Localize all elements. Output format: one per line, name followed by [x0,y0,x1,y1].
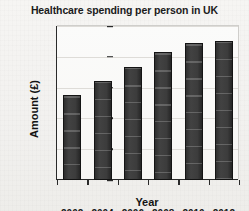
gridline [57,149,238,150]
x-tick-label: 2012 [207,208,241,211]
x-tick-mark [239,180,240,185]
x-tick-mark [209,180,210,185]
chart-title: Healthcare spending per person in UK [0,4,249,16]
x-tick-mark [57,180,58,185]
bar [154,52,172,180]
gridline [57,118,238,119]
x-tick-label: 2004 [86,208,120,211]
bar [185,43,203,180]
chart-page: Healthcare spending per person in UK Amo… [0,0,249,211]
x-tick-label: 2008 [146,208,180,211]
bar [94,81,112,180]
bar [63,95,81,180]
x-tick-label: 2006 [116,208,150,211]
x-axis-label: Year [56,196,238,208]
x-tick-mark [178,180,179,185]
x-tick-label: 2002 [55,208,89,211]
y-tick-mark [107,56,113,58]
plot-area: 05001000150020002500 2002200420062008201… [56,26,238,180]
y-axis-label: Amount (£) [28,49,40,169]
y-tick-mark [107,25,113,27]
gridline [57,88,238,89]
bar [124,67,142,180]
x-tick-mark [87,180,88,185]
gridline [57,57,238,58]
gridline [57,26,238,27]
x-tick-mark [148,180,149,185]
x-tick-mark [118,180,119,185]
x-tick-label: 2010 [177,208,211,211]
bar [215,41,233,180]
